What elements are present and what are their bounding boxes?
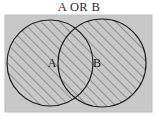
set-label-b: B — [93, 56, 101, 70]
venn-canvas: A B — [0, 0, 158, 122]
venn-diagram-figure: A OR B A B — [0, 0, 158, 122]
set-label-a: A — [48, 56, 57, 70]
